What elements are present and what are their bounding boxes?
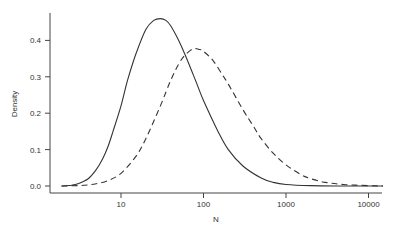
- x-tick-label: 10000: [357, 200, 380, 209]
- y-tick-label: 0.1: [30, 146, 42, 155]
- y-axis-ticks: 0.00.10.20.30.4: [30, 36, 50, 191]
- series-layer: [62, 19, 384, 186]
- density-chart: 0.00.10.20.30.4 10100100010000 Density N: [0, 0, 395, 236]
- x-tick-label: 100: [197, 200, 211, 209]
- y-tick-label: 0.4: [30, 36, 42, 45]
- y-axis-title: Density: [10, 91, 19, 118]
- y-axis: 0.00.10.20.30.4: [30, 13, 50, 193]
- x-axis-ticks: 10100100010000: [117, 193, 381, 209]
- x-axis-title: N: [213, 215, 219, 224]
- y-tick-label: 0.0: [30, 182, 42, 191]
- x-axis: 10100100010000: [50, 193, 382, 209]
- solid-density-curve: [62, 19, 384, 186]
- x-tick-label: 1000: [277, 200, 295, 209]
- dashed-density-curve: [62, 48, 384, 186]
- y-tick-label: 0.3: [30, 73, 42, 82]
- y-tick-label: 0.2: [30, 109, 42, 118]
- x-tick-label: 10: [117, 200, 126, 209]
